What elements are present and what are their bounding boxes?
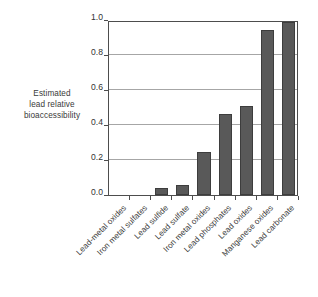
bar [155,188,168,195]
y-axis-title-line-3: bioaccessibility [4,110,100,121]
bar [240,106,253,195]
x-axis-tick-mark [129,196,130,200]
y-axis-tick-label: 0.0 [91,187,103,197]
bar-chart-figure: Estimated lead relative bioaccessibility… [0,0,318,297]
x-axis-tick-mark [298,196,299,200]
x-axis-tick-mark [214,196,215,200]
bar-series [109,22,297,195]
x-axis-tick-mark [192,196,193,200]
y-axis-tick-label: 0.6 [91,82,103,92]
x-axis-tick-mark [235,196,236,200]
y-axis-tick-label: 1.0 [91,12,103,22]
bar [282,22,295,195]
y-axis-tick-mark [104,55,108,56]
y-axis-tick-label: 0.8 [91,47,103,57]
y-axis-title-line-1: Estimated [4,88,100,99]
x-axis-ticks [108,196,298,200]
y-axis-tick-mark [104,90,108,91]
bar [176,185,189,195]
x-axis-tick-mark [256,196,257,200]
x-axis-tick-mark [277,196,278,200]
y-axis-tick-mark [104,20,108,21]
y-axis-tick-mark [104,125,108,126]
y-axis-title-line-2: lead relative [4,99,100,110]
y-axis-title: Estimated lead relative bioaccessibility [4,88,100,121]
bar [261,30,274,195]
x-axis-tick-mark [150,196,151,200]
bar [197,152,210,195]
y-axis-tick-mark [104,160,108,161]
bar [219,114,232,195]
plot-area [108,21,298,196]
y-axis-tick-label: 0.4 [91,117,103,127]
x-axis-tick-mark [171,196,172,200]
y-axis-tick-label: 0.2 [91,152,103,162]
